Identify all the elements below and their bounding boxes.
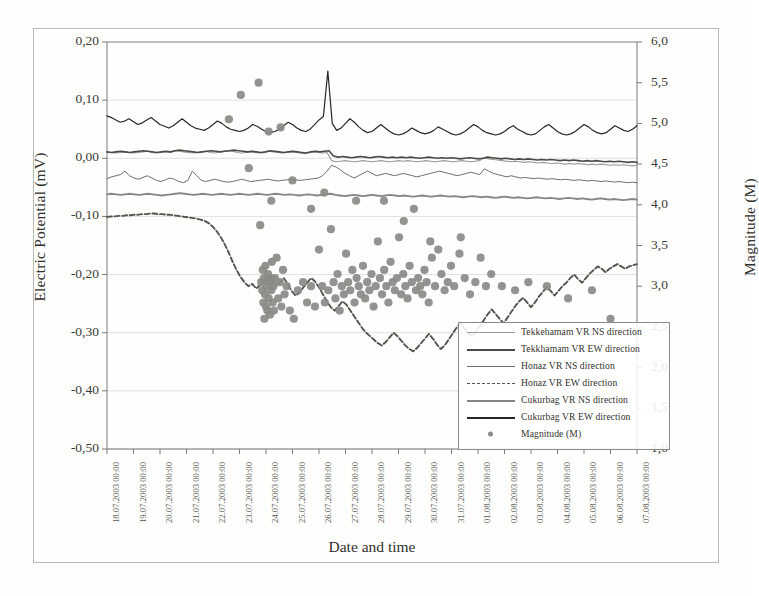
legend-marker-line-icon bbox=[467, 417, 515, 419]
scatter-point bbox=[380, 266, 388, 274]
scatter-point bbox=[441, 286, 449, 294]
scatter-point bbox=[487, 270, 495, 278]
scatter-point bbox=[276, 278, 284, 286]
scatter-point bbox=[286, 307, 294, 315]
legend-swatch bbox=[467, 377, 515, 389]
scatter-point bbox=[245, 164, 253, 172]
legend-label: Honaz VR NS direction bbox=[521, 360, 615, 371]
legend-label: Cukurbag VR EW direction bbox=[521, 411, 630, 422]
scatter-point bbox=[265, 127, 273, 135]
scatter-point bbox=[406, 262, 414, 270]
scatter-point bbox=[369, 302, 377, 310]
legend-item[interactable]: Magnitude (M) bbox=[459, 425, 669, 442]
legend-marker-line-icon bbox=[467, 332, 515, 333]
legend-swatch bbox=[467, 343, 515, 355]
scatter-point bbox=[450, 282, 458, 290]
scatter-point bbox=[225, 115, 233, 123]
scatter-point bbox=[342, 250, 350, 258]
scatter-point bbox=[414, 274, 422, 282]
scatter-point bbox=[374, 237, 382, 245]
scatter-point bbox=[344, 278, 352, 286]
scatter-point bbox=[333, 270, 341, 278]
scatter-point bbox=[418, 290, 426, 298]
legend-item[interactable]: Honaz VR EW direction bbox=[459, 374, 669, 391]
scatter-point bbox=[321, 298, 329, 306]
scatter-point bbox=[237, 91, 245, 99]
scatter-point bbox=[277, 302, 285, 310]
scatter-point bbox=[588, 286, 596, 294]
scatter-point bbox=[457, 233, 465, 241]
scatter-point bbox=[331, 294, 339, 302]
scatter-point bbox=[425, 298, 433, 306]
scatter-point bbox=[273, 254, 281, 262]
legend-item[interactable]: Cukurbag VR NS direction bbox=[459, 391, 669, 408]
scatter-point bbox=[359, 262, 367, 270]
scatter-point bbox=[290, 315, 298, 323]
legend-swatch bbox=[467, 411, 515, 423]
scatter-point bbox=[524, 278, 532, 286]
scatter-point bbox=[466, 290, 474, 298]
scatter-point bbox=[294, 286, 302, 294]
scatter-point bbox=[324, 286, 332, 294]
scatter-point bbox=[353, 274, 361, 282]
legend-marker-dot-icon bbox=[488, 431, 493, 436]
legend-swatch bbox=[467, 326, 515, 338]
scatter-point bbox=[367, 270, 375, 278]
scatter-point bbox=[498, 282, 506, 290]
legend-label: Magnitude (M) bbox=[521, 428, 581, 439]
scatter-point bbox=[311, 302, 319, 310]
scatter-point bbox=[299, 278, 307, 286]
scatter-point bbox=[422, 278, 430, 286]
scatter-point bbox=[437, 270, 445, 278]
legend-marker-line-icon bbox=[467, 400, 515, 402]
scatter-point bbox=[372, 282, 380, 290]
scatter-point bbox=[279, 266, 287, 274]
scatter-point bbox=[378, 290, 386, 298]
scatter-point bbox=[256, 221, 264, 229]
scatter-point bbox=[307, 282, 315, 290]
scatter-point bbox=[426, 237, 434, 245]
scatter-point bbox=[380, 197, 388, 205]
scatter-point bbox=[320, 188, 328, 196]
scatter-point bbox=[403, 294, 411, 302]
scatter-point bbox=[477, 254, 485, 262]
scatter-point bbox=[267, 197, 275, 205]
legend-item[interactable]: Tekkhamam VR EW direction bbox=[459, 340, 669, 357]
scatter-point bbox=[355, 282, 363, 290]
scatter-point bbox=[471, 278, 479, 286]
scatter-point bbox=[482, 282, 490, 290]
scatter-point bbox=[431, 282, 439, 290]
legend-swatch bbox=[467, 428, 515, 440]
scatter-point bbox=[348, 266, 356, 274]
scatter-point bbox=[288, 176, 296, 184]
scatter-point bbox=[352, 197, 360, 205]
scatter-point bbox=[395, 233, 403, 241]
scatter-point bbox=[461, 274, 469, 282]
scatter-point bbox=[303, 298, 311, 306]
legend-item[interactable]: Cukurbag VR EW direction bbox=[459, 408, 669, 425]
legend-label: Tekkhamam VR EW direction bbox=[521, 343, 640, 354]
scatter-point bbox=[400, 217, 408, 225]
scatter-point bbox=[283, 282, 291, 290]
legend-label: Cukurbag VR NS direction bbox=[521, 394, 628, 405]
scatter-point bbox=[399, 270, 407, 278]
scatter-point bbox=[315, 245, 323, 253]
scatter-point bbox=[564, 294, 572, 302]
scatter-point bbox=[270, 307, 278, 315]
scatter-point bbox=[455, 250, 463, 258]
legend-item[interactable]: Tekkehamam VR NS direction bbox=[459, 323, 669, 340]
scatter-point bbox=[434, 245, 442, 253]
scatter-point bbox=[280, 290, 288, 298]
scatter-point bbox=[511, 286, 519, 294]
legend-item[interactable]: Honaz VR NS direction bbox=[459, 357, 669, 374]
scatter-point bbox=[363, 278, 371, 286]
scatter-point bbox=[327, 225, 335, 233]
scatter-point bbox=[329, 278, 337, 286]
scatter-point bbox=[428, 254, 436, 262]
legend-marker-line-icon bbox=[467, 383, 515, 384]
legend-marker-line-icon bbox=[467, 349, 515, 351]
chart-legend[interactable]: Tekkehamam VR NS directionTekkhamam VR E… bbox=[458, 322, 670, 450]
